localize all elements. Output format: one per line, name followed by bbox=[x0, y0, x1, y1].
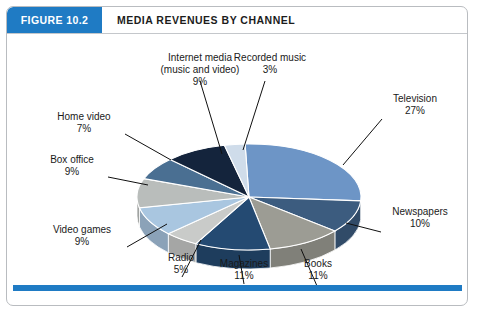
figure-panel: FIGURE 10.2 MEDIA REVENUES BY CHANNEL bbox=[6, 6, 468, 306]
slice-label-books: Books 11% bbox=[285, 258, 351, 282]
video-games-value: 9% bbox=[39, 236, 125, 248]
television-value: 27% bbox=[375, 105, 455, 117]
recorded-music-value: 3% bbox=[220, 64, 320, 76]
video-games-name: Video games bbox=[39, 224, 125, 236]
leader-recorded-music bbox=[243, 81, 265, 150]
home-video-name: Home video bbox=[41, 111, 127, 123]
slice-label-television: Television 27% bbox=[375, 93, 455, 117]
slice-label-magazines: Magazines 11% bbox=[205, 258, 283, 282]
box-office-value: 9% bbox=[33, 166, 111, 178]
newspapers-name: Newspapers bbox=[379, 206, 461, 218]
newspapers-value: 10% bbox=[379, 218, 461, 230]
footer-accent-bar bbox=[13, 285, 462, 291]
home-video-value: 7% bbox=[41, 123, 127, 135]
radio-value: 5% bbox=[146, 264, 216, 276]
figure-title: MEDIA REVENUES BY CHANNEL bbox=[117, 7, 295, 33]
slice-label-video-games: Video games 9% bbox=[39, 224, 125, 248]
pie-chart: Internet media (music and video) 9% Reco… bbox=[7, 34, 467, 287]
leader-home-video bbox=[125, 134, 171, 160]
slice-label-radio: Radio 5% bbox=[146, 252, 216, 276]
internet-media-value: 9% bbox=[125, 76, 275, 88]
recorded-music-name: Recorded music bbox=[220, 52, 320, 64]
figure-number-tab: FIGURE 10.2 bbox=[7, 7, 102, 33]
magazines-name: Magazines bbox=[205, 258, 283, 270]
magazines-value: 11% bbox=[205, 270, 283, 282]
leader-internet-media bbox=[200, 81, 222, 154]
television-name: Television bbox=[375, 93, 455, 105]
slice-label-home-video: Home video 7% bbox=[41, 111, 127, 135]
leader-television bbox=[343, 119, 382, 165]
figure-header: FIGURE 10.2 MEDIA REVENUES BY CHANNEL bbox=[7, 7, 467, 33]
books-name: Books bbox=[285, 258, 351, 270]
box-office-name: Box office bbox=[33, 154, 111, 166]
pie-slice-television bbox=[245, 144, 361, 201]
slice-label-newspapers: Newspapers 10% bbox=[379, 206, 461, 230]
figure-number-label: FIGURE 10.2 bbox=[21, 14, 88, 26]
slice-label-box-office: Box office 9% bbox=[33, 154, 111, 178]
radio-name: Radio bbox=[146, 252, 216, 264]
books-value: 11% bbox=[285, 270, 351, 282]
slice-label-recorded-music: Recorded music 3% bbox=[220, 52, 320, 76]
